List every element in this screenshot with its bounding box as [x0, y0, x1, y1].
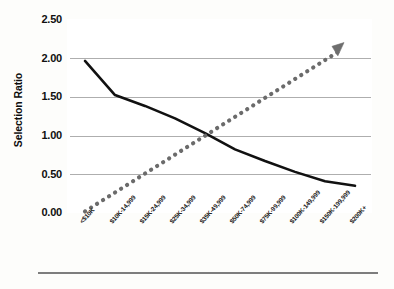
- x-axis-tick-label: $200K+: [348, 204, 368, 225]
- chart-figure: Selection Ratio 2.50 2.00 1.50 1.00 0.50…: [0, 0, 394, 289]
- x-axis-tick-label: $35K-49,999: [198, 194, 227, 225]
- x-axis-tick-label: $25K-34,999: [168, 194, 197, 225]
- x-axis-tick-label: <$10K: [78, 206, 95, 224]
- x-axis-tick-label: $75K-99,999: [258, 194, 287, 225]
- x-axis-tick-labels: <$10K$10K-14,999$15K-24,999$25K-34,999$3…: [0, 0, 394, 289]
- x-axis-tick-label: $15K-24,999: [138, 194, 167, 225]
- footer-divider: [38, 272, 378, 274]
- x-axis-tick-label: $10K-14,999: [108, 194, 137, 225]
- x-axis-tick-label: $50K-74,999: [228, 194, 257, 225]
- x-axis-tick-label: $150K-199,999: [318, 189, 351, 225]
- x-axis-tick-label: $100K-149,999: [288, 189, 321, 225]
